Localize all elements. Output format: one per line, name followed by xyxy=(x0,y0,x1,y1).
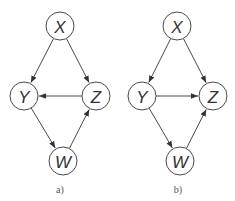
node-label: W xyxy=(172,153,190,172)
node-x: X xyxy=(163,12,191,40)
node-z: Z xyxy=(199,82,227,110)
graph-b: XYZWb) xyxy=(128,12,227,196)
edge-y-to-w xyxy=(31,108,55,148)
edge-x-to-y xyxy=(31,38,54,82)
edge-w-to-z xyxy=(186,109,206,148)
graph-caption: a) xyxy=(56,184,64,196)
node-label: Y xyxy=(18,88,31,107)
edge-x-to-z xyxy=(66,38,89,82)
edge-w-to-z xyxy=(69,109,89,148)
node-w: W xyxy=(166,147,194,175)
edge-y-to-w xyxy=(149,108,172,148)
causal-graphs-canvas: XYZWa)XYZWb) xyxy=(0,0,235,201)
node-label: W xyxy=(55,153,73,172)
graph-caption: b) xyxy=(174,184,182,196)
node-label: X xyxy=(170,18,183,37)
node-label: Y xyxy=(136,88,149,107)
node-label: Z xyxy=(90,88,102,107)
node-label: Z xyxy=(207,88,219,107)
node-x: X xyxy=(46,12,74,40)
node-y: Y xyxy=(10,82,38,110)
edge-x-to-y xyxy=(149,39,171,83)
node-label: X xyxy=(53,18,66,37)
node-w: W xyxy=(49,147,77,175)
node-z: Z xyxy=(82,82,110,110)
edge-x-to-z xyxy=(183,38,206,82)
node-y: Y xyxy=(128,82,156,110)
graph-a: XYZWa) xyxy=(10,12,110,196)
